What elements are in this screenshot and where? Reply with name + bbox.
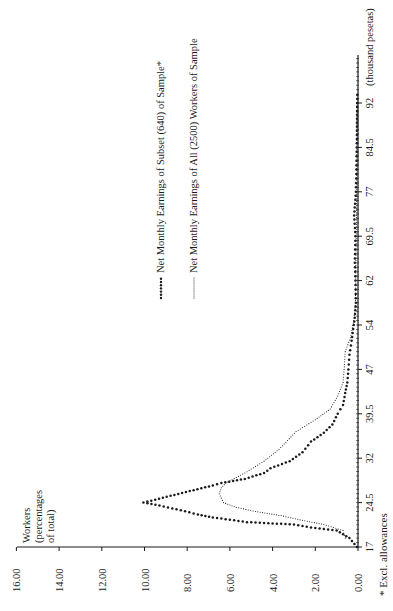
legend-label-subset: Net Monthly Earnings of Subset (640) of … [155,61,167,273]
y-tick-label: 6.00 [225,574,236,592]
x-tick-label: 84.5 [364,138,375,156]
x-tick-label: 47 [364,364,375,375]
y-tick-label: 0.00 [353,574,364,592]
y-tick-label: 10.00 [140,568,151,592]
y-axis-title: Workers (percentages of total) [21,490,57,543]
legend-label-all: Net Monthly Earnings of All (2500) Worke… [188,38,200,273]
x-tick-label: 54 [364,319,375,330]
legend-marker-fine-dots [193,277,194,298]
x-tick-label: 17 [364,542,375,553]
x-axis-title: (thousand pesetas) [364,8,376,86]
y-tick-label: 4.00 [268,574,279,592]
y-axis-title-line-2: (percentages [33,490,45,543]
x-tick-label: 32 [364,453,375,464]
y-tick-label: 12.00 [97,568,108,592]
earnings-distribution-chart: 0.002.004.006.008.0010.0012.0014.0016.00… [0,0,393,611]
y-axis-title-line-1: Workers [21,508,32,543]
x-tick-label: 24.5 [364,493,375,511]
x-axis-ticks: 1724.53239.547546269.57784.592 [358,98,375,553]
x-tick-label: 77 [364,187,375,198]
y-tick-label: 16.00 [11,568,22,592]
legend: Net Monthly Earnings of Subset (640) of … [155,38,200,299]
x-tick-label: 62 [364,275,375,286]
x-tick-label: 69.5 [364,227,375,245]
y-axis-title-line-3: of total) [45,509,57,543]
footnote: * Excl. allowances [377,513,389,596]
y-tick-label: 2.00 [310,574,321,592]
y-tick-label: 14.00 [54,568,65,592]
y-tick-label: 8.00 [182,574,193,592]
y-axis-ticks: 0.002.004.006.008.0010.0012.0014.0016.00 [11,547,364,592]
series-all-workers [219,105,358,539]
x-tick-label: 92 [364,98,375,109]
legend-marker-bold-dots [160,278,162,300]
x-tick-label: 39.5 [364,405,375,423]
series-subset-workers [142,94,358,548]
